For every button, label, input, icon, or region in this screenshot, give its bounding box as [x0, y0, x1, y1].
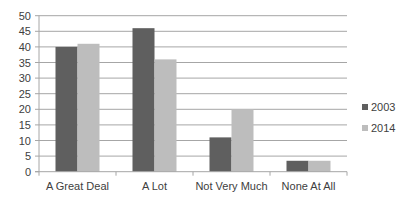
bar-2003	[287, 161, 309, 172]
y-tick-label: 25	[19, 88, 31, 100]
x-axis-labels: A Great DealA LotNot Very MuchNone At Al…	[46, 180, 335, 192]
bar-2003	[210, 137, 232, 171]
category-label: Not Very Much	[195, 180, 267, 192]
y-tick-label: 40	[19, 41, 31, 53]
bar-2003	[133, 28, 155, 172]
bar-2014	[155, 59, 177, 171]
legend-swatch-2014	[362, 125, 368, 131]
bar-chart: 05101520253035404550 A Great DealA LotNo…	[0, 0, 408, 203]
bar-2003	[56, 47, 78, 172]
y-tick-label: 50	[19, 10, 31, 22]
category-label: A Lot	[142, 180, 167, 192]
y-tick-label: 45	[19, 25, 31, 37]
y-tick-label: 10	[19, 135, 31, 147]
y-tick-label: 30	[19, 72, 31, 84]
y-axis-ticks: 05101520253035404550	[19, 10, 39, 178]
y-tick-label: 5	[25, 150, 31, 162]
y-tick-label: 15	[19, 119, 31, 131]
bars	[56, 28, 331, 172]
category-label: A Great Deal	[46, 180, 109, 192]
category-label: None At All	[282, 180, 336, 192]
legend-swatch-2003	[362, 104, 368, 110]
y-tick-label: 0	[25, 166, 31, 178]
y-tick-label: 35	[19, 57, 31, 69]
legend-item-2014: 2014	[362, 117, 395, 138]
y-tick-label: 20	[19, 103, 31, 115]
legend-label-2014: 2014	[371, 122, 395, 134]
legend-item-2003: 2003	[362, 96, 395, 117]
bar-2014	[309, 161, 331, 172]
bar-2014	[232, 109, 254, 171]
legend-label-2003: 2003	[371, 101, 395, 113]
bar-2014	[78, 44, 100, 172]
legend: 2003 2014	[362, 96, 395, 138]
